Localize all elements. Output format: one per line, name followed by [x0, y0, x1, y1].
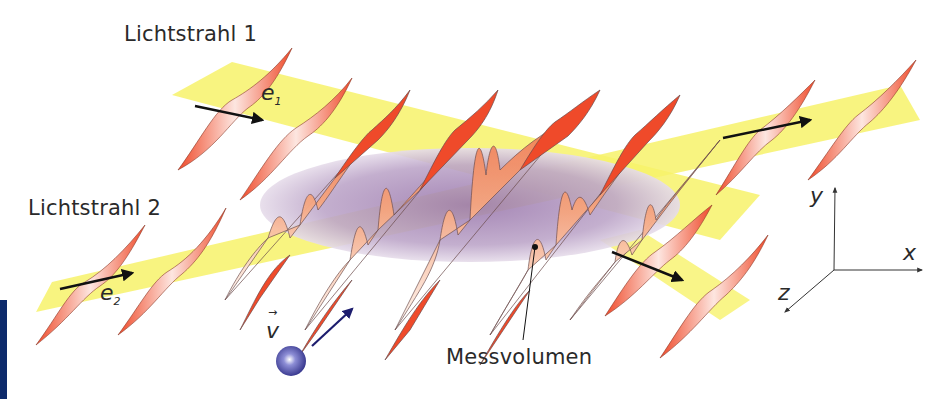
diagram-canvas: Lichtstrahl 1 Lichtstrahl 2 Messvolumen …: [0, 0, 946, 399]
particle: [276, 346, 306, 376]
axis-z-label: z: [778, 280, 790, 305]
beam-1-label: Lichtstrahl 1: [124, 22, 257, 46]
velocity-label: → v: [266, 318, 279, 343]
beam-2-label: Lichtstrahl 2: [28, 196, 161, 220]
e2-label: e2: [100, 280, 121, 308]
axis-x-label: x: [903, 240, 916, 265]
coordinate-axes: [785, 188, 922, 312]
left-edge-bar: [0, 300, 7, 399]
axis-y-label: y: [810, 183, 823, 208]
measurement-volume-label: Messvolumen: [446, 345, 592, 369]
e1-label: e1: [261, 80, 282, 108]
